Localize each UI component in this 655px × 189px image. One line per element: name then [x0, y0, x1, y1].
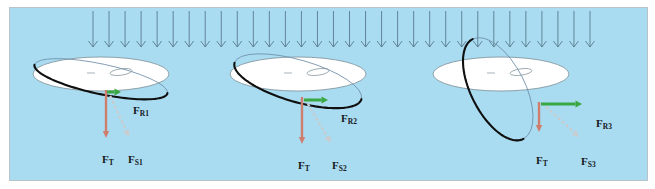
force-symbol: F	[133, 104, 140, 116]
force-shear-vector-3-shaft	[542, 103, 574, 132]
force-subscript: T	[109, 158, 114, 167]
force-total-vector-2-head	[299, 137, 305, 144]
force-shear-vector-1-label: FS1	[128, 154, 143, 165]
force-subscript: R1	[140, 109, 149, 118]
force-total-vector-2-label: FT	[298, 160, 310, 171]
force-radial-vector-3-label: FR3	[596, 118, 612, 129]
force-subscript: T	[543, 159, 548, 168]
force-symbol: F	[332, 159, 339, 171]
force-total-vector-1-label: FT	[102, 154, 114, 165]
force-total-vector-1-head	[103, 131, 109, 138]
force-subscript: T	[305, 164, 310, 173]
force-radial-vector-3-head	[576, 100, 583, 107]
horizontal-disk	[433, 57, 569, 91]
force-symbol: F	[581, 155, 588, 167]
force-symbol: F	[128, 153, 135, 165]
force-radial-vector-2-label: FR2	[341, 113, 357, 124]
force-subscript: S3	[588, 160, 596, 169]
tilt-case-2	[229, 43, 367, 144]
force-radial-vector-2-head	[322, 96, 329, 103]
force-symbol: F	[596, 117, 603, 129]
force-shear-vector-2-shaft	[305, 99, 327, 137]
force-shear-vector-2-label: FS2	[332, 160, 347, 171]
force-radial-vector-1-label: FR1	[133, 105, 149, 116]
force-symbol: F	[536, 154, 543, 166]
force-subscript: R2	[348, 117, 357, 126]
force-subscript: R3	[603, 122, 612, 131]
tilt-case-3	[433, 27, 582, 151]
force-subscript: S1	[135, 158, 143, 167]
horizontal-disk	[33, 57, 169, 91]
force-subscript: S2	[339, 164, 347, 173]
force-symbol: F	[298, 159, 305, 171]
force-shear-vector-3-label: FS3	[581, 156, 596, 167]
diagram-panel: FTFR1FS1FTFR2FS2FTFR3FS3	[9, 7, 648, 181]
force-symbol: F	[102, 153, 109, 165]
horizontal-disk	[230, 57, 366, 91]
force-total-vector-3-label: FT	[536, 155, 548, 166]
incident-radiation-arrows	[89, 11, 595, 47]
force-total-vector-3-head	[536, 125, 542, 132]
force-symbol: F	[341, 112, 348, 124]
tilt-case-1	[31, 50, 170, 138]
figure-root: FTFR1FS1FTFR2FS2FTFR3FS3	[0, 0, 655, 189]
force-shear-vector-3-head	[572, 130, 579, 137]
